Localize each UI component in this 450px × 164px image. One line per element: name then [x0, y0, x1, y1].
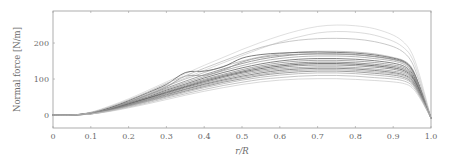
x-tick-label: 0.8 [349, 132, 362, 141]
x-tick-label: 0.3 [160, 132, 173, 141]
curve-run-17 [53, 79, 431, 118]
x-tick-label: 0.5 [236, 132, 249, 141]
curve-series-group [53, 25, 431, 118]
x-axis-label: r/R [235, 146, 249, 156]
x-tick-label: 0.9 [387, 132, 400, 141]
y-tick-label: 0 [44, 111, 49, 120]
y-tick-label: 100 [34, 75, 49, 84]
x-tick-label: 0 [50, 132, 55, 141]
x-tick-label: 1.0 [425, 132, 438, 141]
y-tick-label: 200 [34, 39, 49, 48]
normal-force-chart: 00.10.20.30.40.50.60.70.80.91.0 0100200 … [0, 0, 450, 164]
x-tick-label: 0.6 [273, 132, 286, 141]
x-tick-label: 0.2 [122, 132, 135, 141]
y-axis-ticks: 0100200 [34, 39, 55, 120]
x-tick-label: 0.1 [84, 132, 97, 141]
x-tick-label: 0.4 [198, 132, 211, 141]
y-axis-label: Normal force [N/m] [12, 27, 22, 112]
x-tick-label: 0.7 [311, 132, 324, 141]
